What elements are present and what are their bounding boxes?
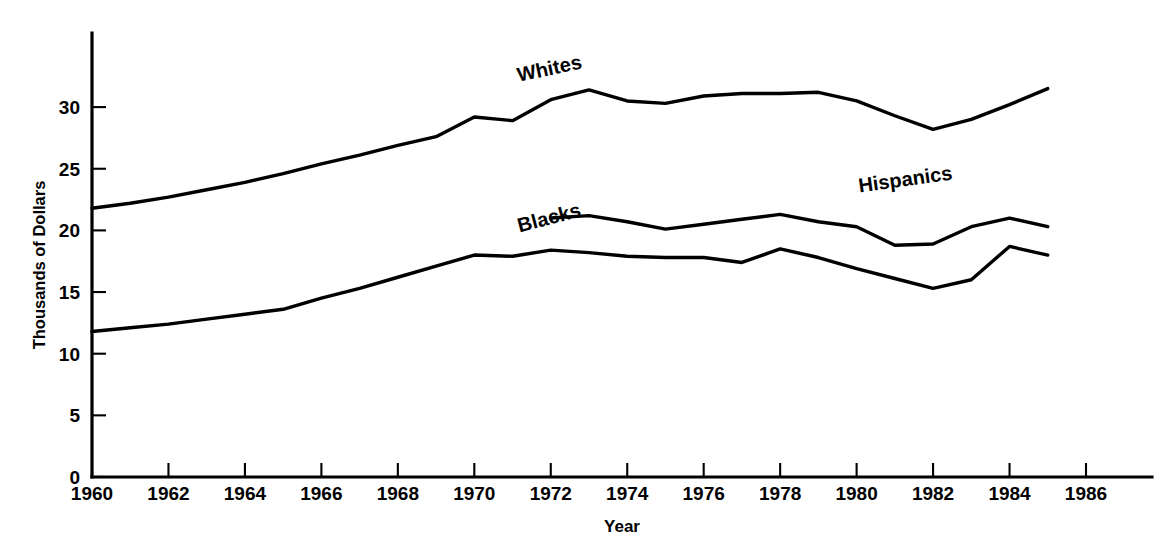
y-tick-label-group: 051015202530	[59, 97, 81, 488]
series-line-blacks	[92, 246, 1048, 331]
x-tick-label: 1966	[300, 483, 342, 504]
series-label-whites: Whites	[515, 51, 584, 86]
x-tick-label: 1982	[912, 483, 954, 504]
x-tick-label: 1980	[835, 483, 877, 504]
chart-figure: 051015202530 196019621964196619681970197…	[0, 0, 1155, 551]
series-label-group: WhitesBlacksHispanics	[515, 51, 954, 237]
x-tick-label: 1964	[224, 483, 267, 504]
y-tick-label: 5	[69, 405, 80, 426]
y-tick-label: 20	[59, 220, 80, 241]
x-tick-label: 1972	[530, 483, 572, 504]
y-axis-title: Thousands of Dollars	[30, 181, 48, 350]
y-tick-label: 10	[59, 344, 80, 365]
x-tick-label: 1984	[988, 483, 1031, 504]
series-label-hispanics: Hispanics	[857, 162, 954, 197]
y-tick-label: 30	[59, 97, 80, 118]
x-tick-label: 1986	[1065, 483, 1107, 504]
line-chart: 051015202530 196019621964196619681970197…	[0, 0, 1155, 551]
x-tick-label: 1968	[377, 483, 419, 504]
x-tick-group	[92, 463, 1086, 477]
y-tick-group	[92, 107, 106, 477]
x-tick-label: 1978	[759, 483, 801, 504]
x-tick-label: 1974	[606, 483, 649, 504]
x-axis-title: Year	[604, 517, 640, 536]
x-tick-label: 1960	[71, 483, 113, 504]
y-tick-label: 15	[59, 282, 81, 303]
y-tick-label: 25	[59, 159, 81, 180]
x-tick-label: 1970	[453, 483, 495, 504]
series-label-blacks: Blacks	[515, 199, 583, 237]
x-tick-label-group: 1960196219641966196819701972197419761978…	[71, 483, 1107, 504]
series-line-hispanics	[551, 214, 1048, 245]
x-tick-label: 1976	[683, 483, 725, 504]
x-tick-label: 1962	[147, 483, 189, 504]
